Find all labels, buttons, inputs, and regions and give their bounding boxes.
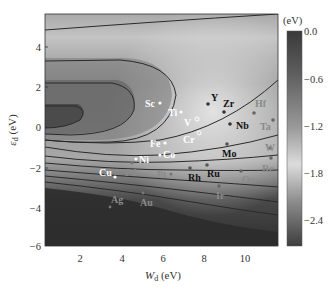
colorbar-unit: (eV)	[283, 15, 303, 27]
label-Ta: Ta	[260, 121, 271, 132]
y-tick: −4	[30, 203, 42, 214]
label-Au: Au	[140, 197, 153, 208]
y-tick: −6	[30, 241, 41, 252]
label-W: W	[265, 142, 275, 153]
label-Pt: Pt	[157, 169, 167, 180]
x-tick: 2	[77, 253, 82, 264]
x-tick: 10	[240, 253, 251, 264]
x-tick: 4	[119, 253, 125, 264]
x-tick: 8	[201, 253, 206, 264]
label-Nb: Nb	[236, 120, 249, 131]
x-tick: 6	[160, 253, 165, 264]
y-tick: 2	[36, 82, 41, 93]
y-axis: 4 2 0 −2 −4 −6 εd (eV)	[6, 42, 48, 252]
y-tick: −2	[30, 163, 41, 174]
label-Hf: Hf	[255, 98, 267, 109]
label-Mo: Mo	[222, 148, 236, 159]
colorbar-tick: 0.0	[304, 26, 317, 37]
label-Ti: Ti	[168, 107, 177, 118]
label-Ru: Ru	[207, 168, 220, 179]
x-axis-label: Wd (eV)	[145, 269, 181, 283]
colorbar-tick: −1.2	[304, 121, 323, 132]
y-tick: 0	[36, 122, 41, 133]
label-Sc: Sc	[145, 98, 156, 109]
label-Fe: Fe	[150, 138, 161, 149]
label-Rh: Rh	[188, 172, 201, 183]
colorbar-tick: −1.8	[304, 168, 323, 179]
label-Co: Co	[163, 149, 175, 160]
label-Zr: Zr	[223, 98, 235, 109]
label-Ag: Ag	[111, 194, 123, 205]
label-Ni: Ni	[139, 154, 149, 165]
contour-chart: Sc Ti V Cr Fe Co Ni Cu Y Zr Nb Mo Ru Rh …	[0, 0, 333, 291]
colorbar-tick: −0.6	[304, 74, 323, 85]
y-tick: 4	[36, 42, 42, 53]
label-Y: Y	[211, 92, 219, 103]
label-Re: Re	[262, 163, 274, 174]
label-Pd: Pd	[125, 167, 137, 178]
label-Os: Os	[242, 174, 254, 185]
colorbar: (eV) 0.0 −0.6 −1.2 −1.8 −2.4	[283, 15, 324, 246]
label-Cr: Cr	[183, 134, 195, 145]
label-Cu: Cu	[99, 167, 112, 178]
y-axis-label: εd (eV)	[6, 114, 20, 146]
x-axis: 2 4 6 8 10 Wd (eV)	[77, 243, 250, 283]
label-V: V	[184, 117, 192, 128]
label-Ir: Ir	[216, 190, 225, 201]
colorbar-tick: −2.4	[304, 215, 324, 226]
